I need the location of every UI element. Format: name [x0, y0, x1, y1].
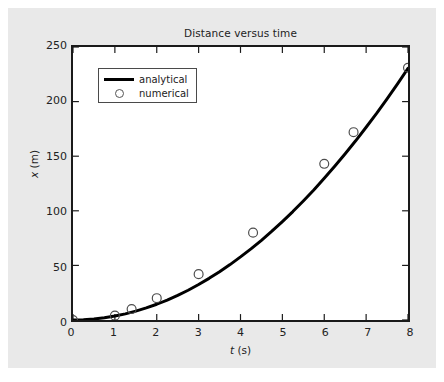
- legend-line-swatch: [99, 78, 139, 81]
- y-axis-symbol: x: [28, 172, 40, 178]
- legend-item-analytical: analytical: [99, 72, 196, 86]
- y-axis-label: x (m): [28, 134, 40, 194]
- chart-title: Distance versus time: [71, 27, 410, 39]
- x-tick-label: 2: [144, 326, 168, 339]
- x-tick-label: 1: [101, 326, 125, 339]
- numerical-marker: [152, 294, 161, 303]
- x-tick-label: 8: [398, 326, 422, 339]
- y-axis-unit: (m): [28, 150, 40, 168]
- x-tick-label: 5: [271, 326, 295, 339]
- x-tick-label: 7: [356, 326, 380, 339]
- figure-panel: Distance versus time 050100150200250 012…: [8, 8, 436, 368]
- y-tick-label: 200: [33, 94, 67, 107]
- x-axis-tick-labels: 012345678: [71, 326, 410, 342]
- x-tick-label: 0: [59, 326, 83, 339]
- y-tick-label: 100: [33, 205, 67, 218]
- x-tick-label: 6: [313, 326, 337, 339]
- numerical-marker: [194, 270, 203, 279]
- y-tick-label: 50: [33, 260, 67, 273]
- x-axis-label: t (s): [71, 344, 410, 356]
- x-axis-symbol: t: [230, 344, 234, 356]
- legend-label: numerical: [139, 88, 189, 99]
- chart-legend: analytical numerical: [98, 68, 197, 103]
- analytical-curve: [73, 68, 408, 320]
- x-tick-label: 3: [186, 326, 210, 339]
- legend-item-numerical: numerical: [99, 86, 196, 100]
- numerical-marker: [349, 128, 358, 137]
- numerical-marker: [249, 228, 258, 237]
- x-axis-unit: (s): [237, 344, 251, 356]
- numerical-marker: [320, 159, 329, 168]
- x-tick-label: 4: [229, 326, 253, 339]
- y-tick-label: 250: [33, 39, 67, 52]
- legend-label: analytical: [139, 74, 187, 85]
- legend-circle-swatch: [99, 89, 139, 98]
